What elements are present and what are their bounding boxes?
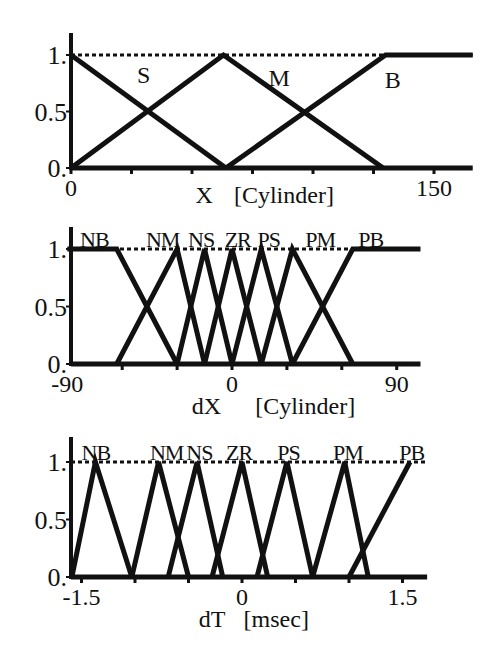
y-tick-label: 1. (48, 235, 68, 264)
chart-delta-x: 1.0.50.-90090dX[Cylinder]NBNMNSZRPSPMPB (35, 227, 421, 419)
series-label-pm: PM (305, 227, 335, 252)
series-label-ps: PS (277, 440, 299, 465)
x-tick-label: 0 (65, 175, 77, 201)
membership-pb (292, 249, 420, 364)
series-label-nb: NB (80, 227, 109, 252)
y-tick-label: 1. (48, 448, 68, 477)
chart-position-x: 1.0.50.0150X[Cylinder]SMB (35, 33, 473, 208)
x-axis-label: dX (192, 393, 221, 419)
series-label-m: M (268, 65, 289, 91)
x-tick-label: 90 (385, 371, 409, 397)
membership-nb (67, 249, 177, 364)
series-label-nm: NM (146, 227, 180, 252)
series-label-zr: ZR (225, 227, 252, 252)
y-tick-label: 0.5 (35, 293, 68, 322)
membership-nm (132, 462, 189, 577)
series-label-s: S (137, 62, 150, 88)
x-axis-unit: [Cylinder] (255, 393, 355, 419)
y-tick-label: 1. (48, 41, 68, 70)
membership-zr (205, 249, 262, 364)
x-tick-label: 150 (416, 175, 452, 201)
membership-ns (177, 249, 232, 364)
y-tick-label: 0.5 (35, 506, 68, 535)
x-tick-label: -90 (51, 371, 83, 397)
series-label-pb: PB (358, 227, 383, 252)
series-label-ps: PS (258, 227, 280, 252)
membership-pm (261, 249, 353, 364)
series-label-nm: NM (150, 440, 184, 465)
fuzzy-membership-figure: 1.0.50.0150X[Cylinder]SMB 1.0.50.-90090d… (0, 0, 492, 668)
y-tick-label: 0.5 (35, 98, 68, 127)
membership-nb (72, 462, 132, 577)
series-label-ns: NS (188, 227, 214, 252)
series-label-pm: PM (333, 440, 363, 465)
series-label-zr: ZR (226, 440, 253, 465)
x-axis-unit: [msec] (244, 606, 309, 632)
series-label-nb: NB (82, 440, 111, 465)
membership-ps (232, 249, 292, 364)
x-axis-label: X (195, 182, 212, 208)
series-label-pb: PB (399, 440, 424, 465)
series-label-b: B (385, 67, 401, 93)
membership-b (226, 55, 473, 168)
chart-delta-t: 1.0.50.-1.501.5dT[msec]NBNMNSZRPSPMPB (35, 437, 428, 632)
x-tick-label: -1.5 (63, 584, 101, 610)
x-tick-label: 0 (226, 371, 238, 397)
x-tick-label: 1.5 (388, 584, 418, 610)
x-axis-unit: [Cylinder] (234, 182, 334, 208)
series-label-ns: NS (186, 440, 212, 465)
membership-m (71, 55, 383, 168)
x-axis-label: dT (199, 606, 226, 632)
